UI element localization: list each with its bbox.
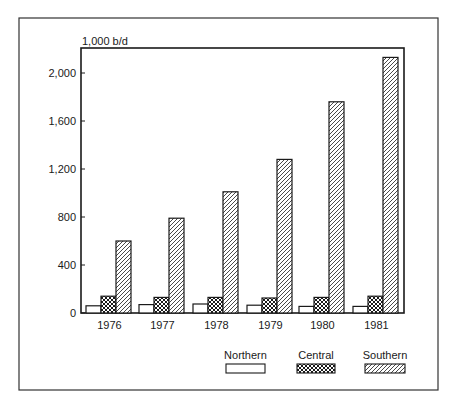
y-axis-ticks: 04008001,2001,6002,000 (48, 67, 85, 319)
bar-central-1981 (368, 296, 383, 313)
y-tick-label: 400 (58, 259, 76, 271)
legend-label: Central (298, 349, 333, 361)
bar-group-1981 (353, 57, 398, 313)
bar-chart: 1,000 b/d 04008001,2001,6002,000 1976197… (0, 0, 454, 404)
bar-group-1977 (139, 218, 184, 313)
bar-group-1976 (86, 241, 131, 313)
bar-central-1976 (101, 296, 116, 313)
bar-group-1978 (193, 192, 238, 313)
bar-southern-1979 (277, 159, 292, 313)
bar-southern-1978 (223, 192, 238, 313)
y-tick-label: 800 (58, 211, 76, 223)
legend-item-southern: Southern (363, 349, 408, 373)
legend-swatch (297, 364, 335, 373)
plot-area (81, 48, 404, 313)
bar-northern-1981 (353, 306, 368, 313)
legend-item-central: Central (297, 349, 335, 373)
bar-northern-1979 (247, 305, 262, 313)
y-unit-label: 1,000 b/d (82, 35, 128, 47)
bar-central-1980 (314, 297, 329, 313)
legend-swatch (365, 364, 405, 373)
legend: NorthernCentralSouthern (224, 349, 407, 373)
bar-southern-1981 (383, 57, 398, 313)
bar-group-1980 (299, 102, 344, 313)
x-tick-label: 1976 (97, 319, 121, 331)
x-tick-label: 1978 (204, 319, 228, 331)
x-tick-label: 1981 (364, 319, 388, 331)
bar-northern-1976 (86, 306, 101, 313)
bar-group-1979 (247, 159, 292, 313)
bar-northern-1977 (139, 305, 154, 313)
bar-northern-1980 (299, 306, 314, 313)
y-tick-label: 1,600 (48, 115, 76, 127)
legend-label: Southern (363, 349, 408, 361)
bar-southern-1980 (329, 102, 344, 313)
legend-swatch (226, 364, 265, 373)
legend-label: Northern (224, 349, 267, 361)
y-tick-label: 1,200 (48, 163, 76, 175)
bar-central-1977 (154, 297, 169, 313)
x-tick-label: 1979 (258, 319, 282, 331)
bar-central-1979 (262, 298, 277, 313)
legend-item-northern: Northern (224, 349, 267, 373)
x-tick-label: 1980 (310, 319, 334, 331)
bar-southern-1976 (116, 241, 131, 313)
x-tick-label: 1977 (150, 319, 174, 331)
y-tick-label: 0 (70, 307, 76, 319)
x-axis-ticks: 197619771978197919801981 (97, 319, 388, 331)
bar-southern-1977 (169, 218, 184, 313)
y-tick-label: 2,000 (48, 67, 76, 79)
bar-northern-1978 (193, 304, 208, 313)
bar-central-1978 (208, 297, 223, 313)
